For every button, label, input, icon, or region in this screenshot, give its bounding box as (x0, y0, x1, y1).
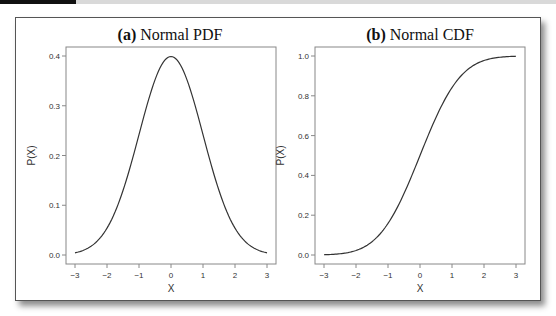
x-tick-label: −2 (351, 271, 361, 280)
x-axis-label: X (417, 283, 424, 294)
x-tick-label: 0 (169, 271, 174, 280)
x-tick-label: 2 (482, 271, 487, 280)
figure-canvas: (a)Normal PDF −3−2−101230.00.10.20.30.4X… (0, 0, 556, 316)
y-tick-label: 0.4 (298, 171, 310, 180)
y-tick-label: 0.1 (49, 201, 61, 210)
y-tick-label: 0.2 (49, 152, 61, 161)
x-tick-label: −3 (319, 271, 329, 280)
panel-normal-cdf: (b)Normal CDF −3−2−101230.00.20.40.60.81… (275, 26, 525, 294)
y-tick-label: 1.0 (298, 52, 310, 61)
x-tick-label: 3 (514, 271, 519, 280)
pdf-curve (75, 57, 267, 253)
panel-normal-pdf: (a)Normal PDF −3−2−101230.00.10.20.30.4X… (26, 26, 276, 294)
x-tick-label: 1 (450, 271, 455, 280)
y-tick-label: 0.6 (298, 132, 310, 141)
x-tick-label: −3 (70, 271, 80, 280)
x-tick-label: −1 (134, 271, 144, 280)
x-tick-label: 0 (418, 271, 423, 280)
x-tick-label: −2 (102, 271, 112, 280)
y-tick-label: 0.2 (298, 211, 310, 220)
x-tick-label: 1 (201, 271, 206, 280)
panel-b-title: (b)Normal CDF (366, 26, 474, 44)
y-axis-label: P(X) (275, 146, 286, 166)
x-axis-label: X (168, 283, 175, 294)
x-tick-label: 3 (265, 271, 270, 280)
y-axis-label: P(X) (26, 146, 37, 166)
y-tick-label: 0.0 (49, 251, 61, 260)
y-tick-label: 0.4 (49, 52, 61, 61)
x-tick-label: 2 (233, 271, 238, 280)
panel-a-title: (a)Normal PDF (118, 26, 223, 44)
cdf-curve (324, 56, 516, 254)
plot-area-box (66, 47, 276, 264)
y-tick-label: 0.8 (298, 92, 310, 101)
x-tick-label: −1 (383, 271, 393, 280)
y-tick-label: 0.3 (49, 102, 61, 111)
y-tick-label: 0.0 (298, 251, 310, 260)
